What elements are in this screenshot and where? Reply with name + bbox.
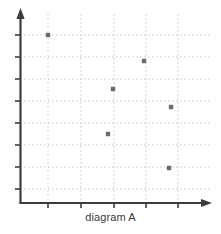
- data-point: [111, 87, 115, 91]
- horizontal-gridlines: [20, 35, 212, 189]
- plot-area: [0, 0, 221, 234]
- data-point: [142, 59, 146, 63]
- y-axis-arrowhead: [16, 8, 24, 19]
- data-point: [167, 166, 171, 170]
- chart-canvas: [0, 0, 221, 234]
- x-axis-arrowhead: [201, 199, 212, 207]
- scatter-plot-figure: diagram A: [0, 0, 221, 234]
- data-point: [46, 33, 50, 37]
- data-point: [106, 132, 110, 136]
- figure-caption: diagram A: [0, 210, 221, 224]
- vertical-gridlines: [48, 14, 178, 209]
- data-point: [169, 105, 173, 109]
